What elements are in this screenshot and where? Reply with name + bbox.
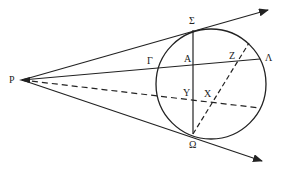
label-y: Y bbox=[183, 87, 190, 98]
circle bbox=[156, 29, 266, 139]
label-p: P bbox=[9, 74, 15, 85]
dashed-chord-omega-z bbox=[193, 43, 249, 134]
label-sigma: Σ bbox=[189, 15, 195, 26]
label-lambda: Λ bbox=[265, 52, 273, 63]
lower-tangent-line bbox=[22, 80, 262, 161]
label-omega: Ω bbox=[189, 139, 196, 150]
point-p-marker bbox=[19, 77, 30, 83]
label-gamma: Γ bbox=[147, 55, 153, 66]
label-x: X bbox=[204, 88, 212, 99]
label-z: Z bbox=[229, 50, 235, 61]
label-a: A bbox=[184, 53, 192, 64]
geometry-diagram: P Σ Γ A Z Λ Y X Ω bbox=[0, 0, 281, 169]
